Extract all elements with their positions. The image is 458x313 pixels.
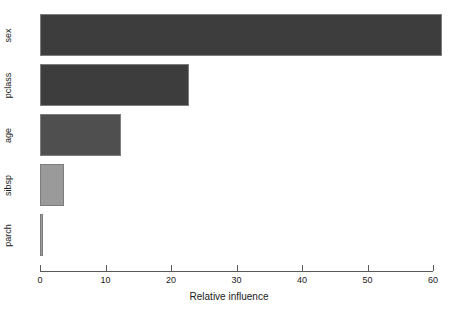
- x-axis-title: Relative influence: [0, 291, 458, 303]
- bar-row: [40, 14, 450, 56]
- plot-area: sexpclassagesibspparch: [40, 8, 450, 264]
- bar-age: [40, 114, 121, 156]
- x-tick-label-40: 40: [282, 275, 322, 286]
- bar-parch: [40, 214, 43, 256]
- bar-row: [40, 164, 450, 206]
- bar-row: [40, 64, 450, 106]
- x-tick-label-20: 20: [151, 275, 191, 286]
- bar-sibsp: [40, 164, 64, 206]
- x-tick-50: [368, 265, 369, 271]
- bar-row: [40, 114, 450, 156]
- bar-sex: [40, 14, 442, 56]
- x-tick-label-60: 60: [413, 275, 453, 286]
- y-axis-label-parch: parch: [3, 206, 14, 266]
- x-tick-60: [433, 265, 434, 271]
- x-tick-label-0: 0: [20, 275, 60, 286]
- x-tick-10: [106, 265, 107, 271]
- x-tick-0: [40, 265, 41, 271]
- x-tick-30: [237, 265, 238, 271]
- x-tick-label-10: 10: [86, 275, 126, 286]
- bar-pclass: [40, 64, 189, 106]
- bar-row: [40, 214, 450, 256]
- x-tick-40: [302, 265, 303, 271]
- x-tick-label-30: 30: [217, 275, 257, 286]
- x-tick-20: [171, 265, 172, 271]
- x-axis-line: [40, 271, 433, 272]
- x-tick-label-50: 50: [348, 275, 388, 286]
- relative-influence-chart: sexpclassagesibspparch 0102030405060 Rel…: [0, 0, 458, 313]
